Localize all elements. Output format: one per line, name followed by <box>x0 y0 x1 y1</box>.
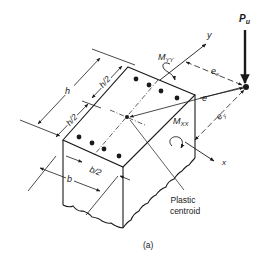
column-biaxial-bending-diagram: y x Pu e ex ey MYY MXX h h/2 h/2 b b/2 <box>0 0 266 257</box>
load-label: Pu <box>239 13 251 25</box>
plastic-centroid-label-line2: centroid <box>170 206 201 216</box>
x-axis <box>185 142 214 161</box>
diagram-canvas: y x Pu e ex ey MYY MXX h h/2 h/2 b b/2 <box>0 0 266 257</box>
plastic-centroid-point <box>125 115 129 119</box>
load-point <box>243 84 249 90</box>
break-line-right <box>123 158 195 228</box>
figure-caption: (a) <box>143 240 154 250</box>
h-label: h <box>65 86 70 96</box>
b-half-line-right <box>120 176 130 180</box>
mxx-moment-arrow <box>170 137 183 148</box>
plastic-centroid-label-line1: Plastic <box>170 195 196 205</box>
b-half-label: b/2 <box>88 164 103 178</box>
eccentricity-e-label: e <box>202 93 207 103</box>
myy-label: MYY <box>158 52 175 63</box>
b-half-line-left <box>66 156 82 162</box>
break-line-front <box>63 205 123 228</box>
ey-label: ey <box>214 108 228 122</box>
ex-label: ex <box>211 66 220 77</box>
myy-moment-arrow <box>163 63 175 80</box>
y-axis-label: y <box>206 30 212 40</box>
b-dimensions <box>28 156 130 215</box>
mxx-label: MXX <box>173 116 190 127</box>
b-label: b <box>67 174 72 184</box>
x-axis-label: x <box>221 158 227 167</box>
